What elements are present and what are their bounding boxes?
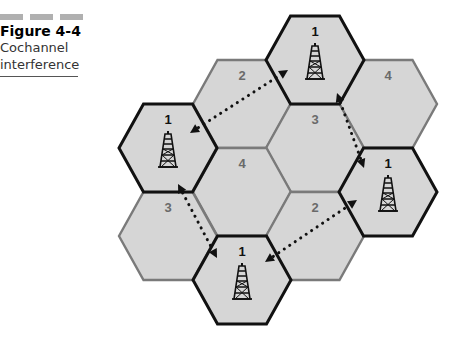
cell-label: 3 [311, 112, 318, 127]
cell-label: 4 [238, 156, 246, 171]
cell-label: 1 [164, 112, 171, 127]
cell-label: 1 [384, 156, 391, 171]
cell-label: 2 [238, 68, 245, 83]
hex-cell-diagram: 1241341321 [0, 0, 457, 338]
cell-label: 1 [311, 24, 318, 39]
cell-label: 3 [164, 200, 171, 215]
cell-label: 4 [384, 68, 392, 83]
cell-label: 1 [238, 244, 245, 259]
cell-label: 2 [311, 200, 318, 215]
